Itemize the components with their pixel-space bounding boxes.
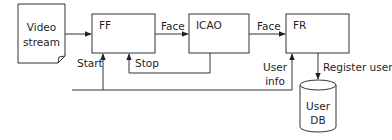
ff-label: FF — [99, 19, 111, 31]
start-label: Start — [77, 57, 103, 69]
icao-label: ICAO — [196, 19, 222, 31]
icao-to-fr-label: Face — [257, 20, 281, 32]
ff-to-icao-label: Face — [161, 20, 185, 32]
user-db-label-line1: User — [300, 100, 336, 112]
video-stream-label-line2: stream — [18, 36, 65, 48]
flow-diagram: Video stream FF ICAO FR User DB Face Fac… — [0, 0, 392, 140]
video-stream-label: Video stream — [18, 21, 65, 48]
video-stream-label-line1: Video — [18, 21, 65, 33]
user-info-label-line1: User — [262, 61, 288, 73]
user-info-label: User info — [262, 61, 288, 87]
user-db-label-line2: DB — [300, 114, 336, 126]
stop-label: Stop — [135, 57, 159, 69]
user-info-label-line2: info — [262, 75, 288, 87]
register-user-label: Register user — [323, 61, 392, 73]
user-db-label: User DB — [300, 100, 336, 126]
fr-label: FR — [293, 19, 306, 31]
